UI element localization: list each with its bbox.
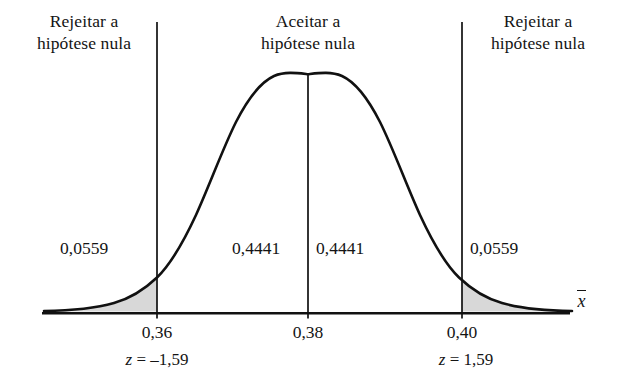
- right-rejection-region-label-line1: Rejeitar a: [504, 11, 573, 31]
- distribution-plot-svg: [0, 0, 621, 376]
- normal-distribution-hypothesis-test-figure: Rejeitar a hipótese nula Aceitar a hipót…: [0, 0, 621, 376]
- acceptance-region-label-line2: hipótese nula: [238, 32, 378, 54]
- z-label-right-value: = 1,59: [445, 350, 493, 369]
- axis-variable-x-bar: x: [577, 290, 586, 310]
- z-label-left: z = –1,59: [97, 351, 217, 368]
- left-rejection-region-label-line2: hipótese nula: [14, 32, 154, 54]
- tick-label-left: 0,36: [117, 324, 197, 342]
- tick-label-center: 0,38: [268, 324, 348, 342]
- x-bar-glyph: x: [577, 292, 586, 310]
- z-label-right: z = 1,59: [406, 351, 526, 368]
- acceptance-region-label-line1: Aceitar a: [276, 11, 341, 31]
- acceptance-right-area-label: 0,4441: [316, 240, 364, 258]
- left-rejection-region-label-line1: Rejeitar a: [50, 11, 119, 31]
- acceptance-region-label: Aceitar a hipótese nula: [238, 10, 378, 55]
- left-rejection-region-label: Rejeitar a hipótese nula: [14, 10, 154, 55]
- tick-label-right: 0,40: [422, 324, 502, 342]
- acceptance-left-area-label: 0,4441: [232, 240, 280, 258]
- right-rejection-region-label-line2: hipótese nula: [468, 32, 608, 54]
- right-rejection-region-label: Rejeitar a hipótese nula: [468, 10, 608, 55]
- right-tail-area-label: 0,0559: [470, 240, 518, 258]
- z-label-left-value: = –1,59: [132, 350, 188, 369]
- left-tail-area-label: 0,0559: [60, 240, 108, 258]
